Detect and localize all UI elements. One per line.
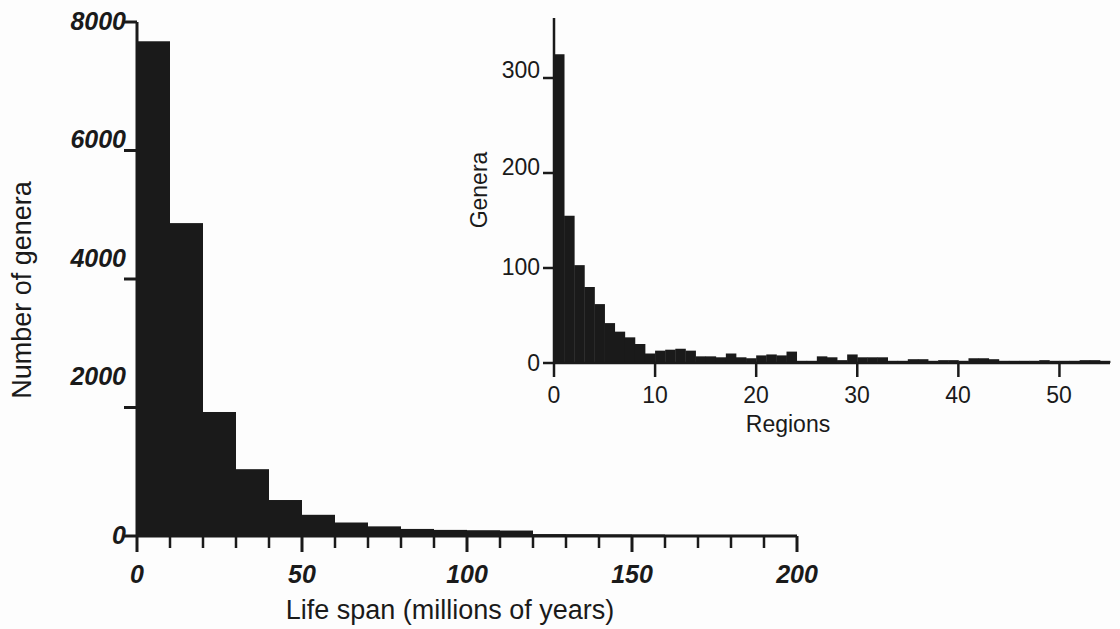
inset-ytick-label-0: 0 xyxy=(527,350,540,376)
inset-bar xyxy=(685,351,696,363)
inset-bar xyxy=(766,354,777,363)
main-bar xyxy=(170,223,203,536)
main-bar xyxy=(269,500,302,536)
inset-ytick-label-300: 300 xyxy=(502,57,540,83)
inset-xtick-label-30: 30 xyxy=(844,382,870,408)
main-y-axis-title: Number of genera xyxy=(7,180,37,399)
inset-x-axis-title: Regions xyxy=(746,411,830,437)
inset-bar xyxy=(726,354,737,364)
histogram-figure: 8000 6000 4000 2000 0 0 50 100 150 200 N… xyxy=(0,0,1120,629)
inset-xtick-label-0: 0 xyxy=(548,382,561,408)
inset-bar xyxy=(615,332,626,363)
main-xtick-label-100: 100 xyxy=(446,560,488,588)
inset-bar xyxy=(655,351,666,363)
main-ytick-label-6000: 6000 xyxy=(70,125,126,153)
inset-bar xyxy=(625,337,636,363)
main-bar xyxy=(302,515,335,536)
inset-bar xyxy=(665,350,676,363)
main-ytick-label-0: 0 xyxy=(112,521,126,549)
main-ytick-label-8000: 8000 xyxy=(70,7,126,35)
main-bar xyxy=(203,412,236,536)
inset-xtick-label-50: 50 xyxy=(1046,382,1072,408)
inset-y-axis-title: Genera xyxy=(466,151,492,228)
main-xtick-label-50: 50 xyxy=(288,560,316,588)
main-x-axis-title: Life span (millions of years) xyxy=(286,595,615,625)
inset-bar xyxy=(584,287,595,363)
inset-ytick-label-200: 200 xyxy=(502,154,540,180)
main-ytick-label-2000: 2000 xyxy=(69,362,126,390)
inset-bar xyxy=(605,323,616,363)
inset-ytick-label-100: 100 xyxy=(502,254,540,280)
inset-bar xyxy=(645,354,656,364)
inset-bar xyxy=(847,354,858,363)
inset-bar xyxy=(554,54,565,363)
main-xtick-label-200: 200 xyxy=(775,560,818,588)
main-ytick-label-4000: 4000 xyxy=(69,244,126,272)
inset-bar xyxy=(594,304,605,363)
inset-bar xyxy=(787,352,798,363)
inset-bar xyxy=(574,265,585,363)
inset-xtick-label-40: 40 xyxy=(945,382,971,408)
inset-xtick-label-10: 10 xyxy=(642,382,668,408)
inset-bar xyxy=(635,344,646,363)
main-bar xyxy=(335,523,368,536)
main-xtick-label-150: 150 xyxy=(611,560,653,588)
main-xtick-label-0: 0 xyxy=(130,560,144,588)
inset-bar xyxy=(675,349,686,363)
inset-bar xyxy=(564,216,575,363)
figure-container: 8000 6000 4000 2000 0 0 50 100 150 200 N… xyxy=(0,0,1120,629)
inset-xtick-label-20: 20 xyxy=(743,382,769,408)
main-bar xyxy=(137,41,170,536)
main-bar xyxy=(236,469,269,536)
